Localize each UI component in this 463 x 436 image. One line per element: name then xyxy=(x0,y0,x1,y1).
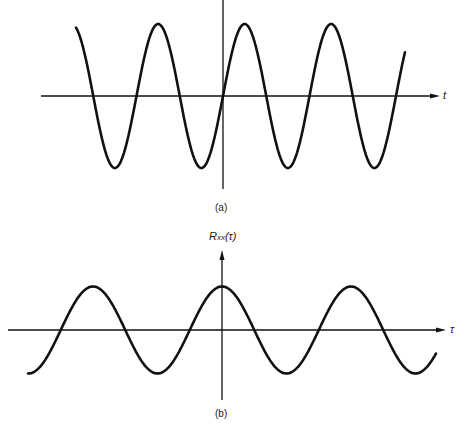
rxx-axis-label: Rxx(τ) xyxy=(209,230,236,242)
figure: t (a) Rxx(τ) τ (b) xyxy=(0,0,463,436)
diagram-canvas xyxy=(0,0,463,436)
rxx-label-arg: (τ) xyxy=(225,230,236,242)
panel-a-caption: (a) xyxy=(215,202,227,213)
panel-b-caption: (b) xyxy=(215,408,227,419)
panel-b xyxy=(8,250,446,400)
panel-a xyxy=(41,0,440,189)
t-axis-label: t xyxy=(443,89,446,101)
tau-axis-arrowhead-icon xyxy=(436,328,446,333)
rxx-axis-arrowhead-icon xyxy=(220,250,225,260)
t-axis-arrowhead-icon xyxy=(430,94,440,99)
tau-axis-label: τ xyxy=(450,323,454,335)
rxx-label-main: R xyxy=(209,230,217,242)
rxx-label-sub: xx xyxy=(217,233,225,242)
